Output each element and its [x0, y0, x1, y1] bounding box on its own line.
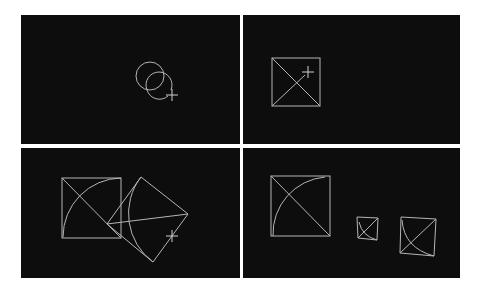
viewport-bottom-right[interactable]: [243, 148, 460, 278]
rotated-diagonal-line: [107, 214, 188, 224]
drawing-canvas: [243, 15, 460, 144]
crosshair-cursor-icon: [166, 230, 178, 242]
viewport-top-right[interactable]: [243, 15, 460, 144]
drawing-canvas: [21, 15, 240, 144]
crosshair-cursor-icon: [166, 89, 178, 101]
viewport-bottom-left[interactable]: [21, 148, 240, 278]
skewed-diagonal-line: [400, 219, 436, 253]
small-arc-shape: [359, 222, 377, 240]
drawing-canvas: [21, 148, 240, 278]
circle-arc-lower: [147, 90, 168, 99]
viewport-top-left[interactable]: [21, 15, 240, 144]
partial-diagonal-line: [272, 75, 305, 106]
drawing-canvas: [243, 148, 460, 278]
